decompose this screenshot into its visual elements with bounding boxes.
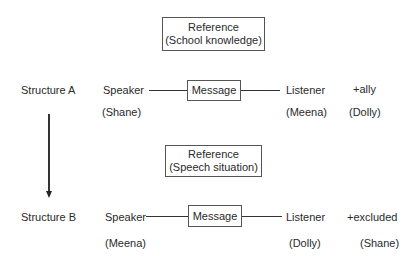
structure-a-listener-line [241,90,280,91]
structure-a-listener: Listener [286,84,325,97]
structure-b-speaker-name: (Meena) [105,237,146,250]
reference-box-a: Reference (School knowledge) [162,17,265,51]
reference-box-b-subtitle: (Speech situation) [169,161,258,174]
structure-b-listener-line [242,216,282,217]
structure-b-message-label: Message [193,210,238,223]
reference-box-b-title: Reference [188,148,239,161]
reference-box-a-title: Reference [188,21,239,34]
reference-box-b: Reference (Speech situation) [165,145,262,177]
reference-box-a-subtitle: (School knowledge) [165,34,262,47]
structure-b-listener-name: (Dolly) [289,237,321,250]
structure-a-listener-name: (Meena) [286,106,327,119]
structure-b-speaker-line [146,216,188,217]
structure-a-label: Structure A [21,84,75,97]
transition-arrow-shaft [48,114,50,192]
structure-b-listener: Listener [286,211,325,224]
structure-a-third-party-name: (Dolly) [349,106,381,119]
structure-b-message-box: Message [188,205,242,227]
structure-b-third-party: +excluded [347,211,397,224]
structure-a-message-label: Message [192,84,237,97]
structure-a-speaker-name: (Shane) [102,106,141,119]
structure-a-third-party: +ally [353,83,376,96]
structure-b-label: Structure B [21,211,76,224]
arrow-down-icon [46,191,52,198]
structure-a-speaker-line [149,90,187,91]
structure-b-speaker: Speaker [105,211,146,224]
structure-a-speaker: Speaker [103,84,144,97]
structure-b-third-party-name: (Shane) [360,237,399,250]
structure-a-message-box: Message [187,80,241,101]
